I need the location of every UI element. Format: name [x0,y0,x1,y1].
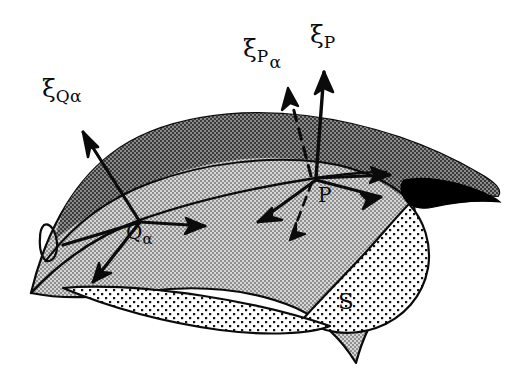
surface-s-text: S [338,288,354,314]
figure-root: ξQα ξPα ξP P Qα S [0,0,531,380]
xi-subscript-p-only: P [324,32,336,52]
xi-subscript-q: Q [56,86,70,106]
point-q-text: Q [126,220,142,244]
label-surface-s: S [338,290,354,313]
xi-subscript-q-alpha: α [70,86,82,106]
point-q-subscript-alpha: α [142,230,152,248]
xi-subscript-p-alpha: α [270,52,281,72]
xi-symbol-p: ξ [310,20,324,49]
xi-symbol-p-alpha: ξ [243,34,257,63]
label-point-p: P [318,185,331,205]
label-xi-p-alpha: ξPα [243,36,281,71]
point-p-text: P [318,183,331,207]
label-point-q-alpha: Qα [126,222,153,247]
xi-symbol-q: ξ [42,74,56,103]
xi-subscript-p: P [257,46,269,66]
label-xi-p: ξP [310,22,336,51]
label-xi-q-alpha: ξQα [42,76,82,105]
